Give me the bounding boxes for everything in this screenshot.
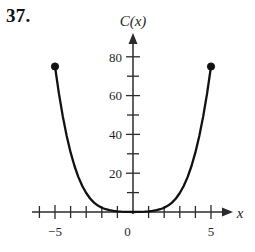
endpoint-dot-left bbox=[51, 63, 58, 70]
x-tick-label-5: 5 bbox=[208, 224, 215, 239]
y-tick-label-80: 80 bbox=[109, 50, 122, 65]
figure-container: 37. bbox=[0, 0, 255, 252]
y-tick-label-20: 20 bbox=[109, 166, 122, 181]
y-axis-title: C(x) bbox=[120, 13, 147, 30]
coordinate-plot: 80 60 40 20 −5 0 5 C(x) x bbox=[0, 0, 255, 252]
y-axis-arrowhead bbox=[129, 33, 138, 44]
x-axis-arrowhead bbox=[222, 208, 233, 217]
endpoint-dot-right bbox=[207, 63, 214, 70]
x-tick-label-0: 0 bbox=[124, 224, 131, 239]
y-tick-label-40: 40 bbox=[109, 127, 122, 142]
x-tick-label-neg5: −5 bbox=[48, 224, 62, 239]
y-tick-label-60: 60 bbox=[109, 88, 122, 103]
x-axis-title: x bbox=[236, 205, 244, 221]
